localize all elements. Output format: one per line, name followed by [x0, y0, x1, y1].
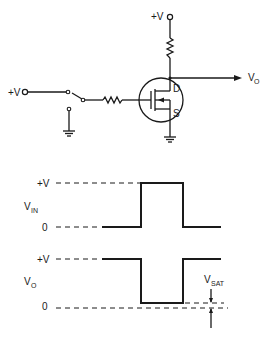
vin-waveform: +V V IN 0: [24, 178, 221, 233]
vo-label-sub: O: [31, 282, 37, 289]
gate-resistor-icon: [103, 97, 122, 103]
switch-ground-icon: [63, 131, 75, 136]
top-supply-label: +V: [151, 11, 164, 22]
spdt-switch-icon: [66, 90, 85, 111]
drain-label: D: [173, 83, 180, 94]
vo-waveform: +V V O 0 V SAT: [24, 254, 228, 328]
circuit-schematic: +V V O D S: [8, 11, 260, 142]
left-supply-terminal-icon: [22, 89, 27, 94]
vsat-label: V: [204, 274, 211, 285]
left-supply-label: +V: [8, 87, 21, 98]
vin-pulse: [102, 183, 221, 227]
source-ground-icon: [164, 137, 176, 142]
top-supply-terminal-icon: [167, 14, 172, 19]
vsat-label-sub: SAT: [211, 280, 225, 287]
vo-low-label: 0: [42, 301, 48, 312]
mosfet-switch-diagram: +V V O D S: [0, 0, 266, 340]
vin-label-sub: IN: [31, 207, 38, 214]
vo-label: V: [24, 276, 31, 287]
drain-resistor-icon: [167, 38, 173, 58]
output-label-sub: O: [254, 78, 260, 85]
vin-high-label: +V: [37, 178, 50, 189]
output-arrow-icon: [234, 75, 242, 81]
source-label: S: [173, 108, 180, 119]
vo-high-label: +V: [37, 254, 50, 265]
vin-label: V: [24, 201, 31, 212]
vin-low-label: 0: [42, 222, 48, 233]
